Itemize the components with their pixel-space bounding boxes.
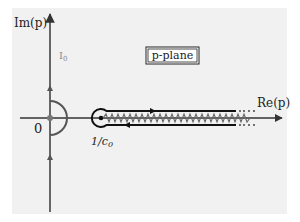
contour-up-arrow-icon <box>47 154 53 160</box>
branch-point-label: 1/c0 <box>91 135 113 149</box>
origin-label: 0 <box>34 121 42 136</box>
contour-label: I0 <box>59 50 67 63</box>
imaginary-axis-label: Im(p) <box>14 16 47 30</box>
imaginary-axis <box>47 14 53 212</box>
right-arrow-icon <box>150 108 156 114</box>
contour-up-arrow-icon <box>47 85 53 91</box>
origin-dot <box>47 115 53 121</box>
plane-label-box: p-plane <box>146 47 199 64</box>
branch-point-dot <box>99 116 104 121</box>
branch-cut <box>103 114 250 122</box>
p-plane-diagram: Im(p) Re(p) 0 1/c0 I0 p-plane <box>0 0 300 222</box>
real-axis-label: Re(p) <box>257 96 290 110</box>
plane-label: p-plane <box>152 49 193 62</box>
